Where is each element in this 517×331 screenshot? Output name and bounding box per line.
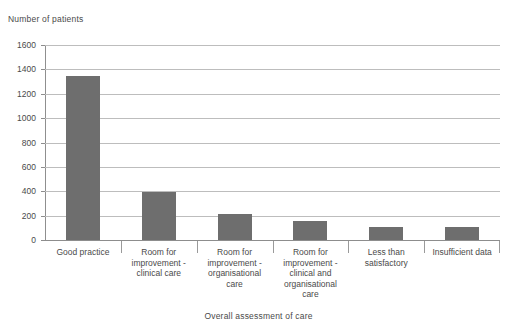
category-divider-tick bbox=[424, 241, 425, 253]
category-divider-tick bbox=[197, 241, 198, 253]
category-divider-tick bbox=[499, 241, 500, 253]
bar bbox=[218, 214, 252, 240]
x-axis-category-label: Room for improvement - clinical and orga… bbox=[273, 241, 349, 300]
x-axis-category-label: Good practice bbox=[45, 241, 121, 258]
y-tick-label: 0 bbox=[0, 235, 36, 245]
x-axis-category: Good practice bbox=[45, 241, 121, 303]
x-axis-category-label: Room for improvement - clinical care bbox=[121, 241, 197, 279]
category-divider-tick bbox=[273, 241, 274, 253]
x-axis-category: Insufficient data bbox=[424, 241, 500, 303]
gridline bbox=[45, 167, 500, 168]
x-axis-category: Room for improvement - organisational ca… bbox=[197, 241, 273, 303]
y-tick-label: 800 bbox=[0, 138, 36, 148]
bar bbox=[142, 192, 176, 240]
y-tick-label: 600 bbox=[0, 162, 36, 172]
gridline bbox=[45, 191, 500, 192]
gridline bbox=[45, 69, 500, 70]
bar bbox=[369, 227, 403, 240]
y-tick-label: 1200 bbox=[0, 89, 36, 99]
gridline bbox=[45, 216, 500, 217]
x-axis-category-labels: Good practiceRoom for improvement - clin… bbox=[45, 241, 500, 303]
gridline bbox=[45, 143, 500, 144]
y-tick-label: 1600 bbox=[0, 40, 36, 50]
y-tick-label: 400 bbox=[0, 186, 36, 196]
y-tick-label: 1000 bbox=[0, 113, 36, 123]
x-axis-title: Overall assessment of care bbox=[0, 311, 517, 321]
gridline bbox=[45, 45, 500, 46]
x-axis-category-label: Less than satisfactory bbox=[348, 241, 424, 268]
x-axis-category: Less than satisfactory bbox=[348, 241, 424, 303]
y-tick-label: 1400 bbox=[0, 64, 36, 74]
y-tick-label: 200 bbox=[0, 211, 36, 221]
bar bbox=[293, 221, 327, 241]
bar-chart: Number of patients 020040060080010001200… bbox=[0, 0, 517, 331]
x-axis-category: Room for improvement - clinical care bbox=[121, 241, 197, 303]
plot-area bbox=[45, 45, 500, 240]
x-axis-category-label: Room for improvement - organisational ca… bbox=[197, 241, 273, 289]
bar bbox=[66, 76, 100, 240]
y-axis-title: Number of patients bbox=[8, 14, 83, 24]
x-axis-category: Room for improvement - clinical and orga… bbox=[273, 241, 349, 303]
bar bbox=[445, 227, 479, 240]
x-axis-category-label: Insufficient data bbox=[424, 241, 500, 258]
category-divider-tick bbox=[121, 241, 122, 253]
gridline bbox=[45, 118, 500, 119]
category-divider-tick bbox=[348, 241, 349, 253]
gridline bbox=[45, 94, 500, 95]
